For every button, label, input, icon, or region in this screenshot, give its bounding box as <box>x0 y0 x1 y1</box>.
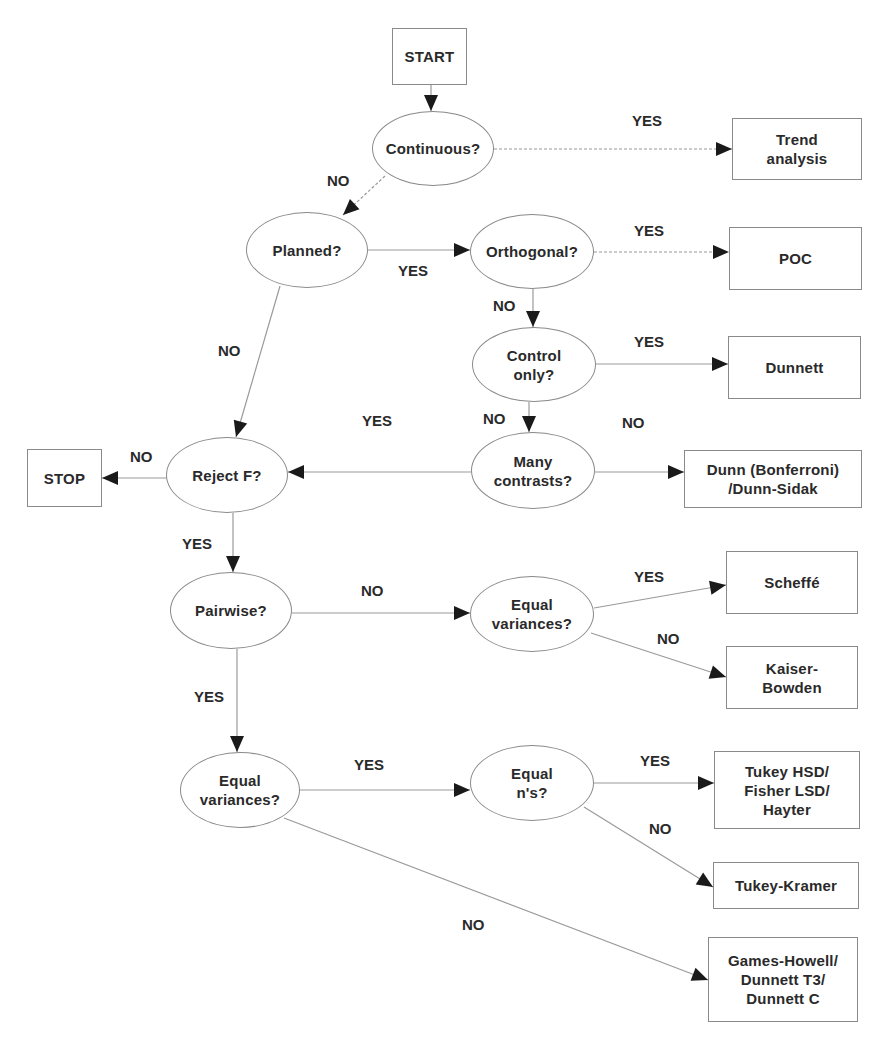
node-eqvar1: Equal variances? <box>470 576 594 652</box>
node-label-tukeykramer: Tukey-Kramer <box>735 876 837 895</box>
node-continuous: Continuous? <box>372 111 494 186</box>
edge-eqvar1-to-scheffe <box>594 585 726 608</box>
node-label-start: START <box>405 47 455 66</box>
edge-label-planned-to-rejectf: NO <box>218 342 241 359</box>
node-label-eqn: Equal n's? <box>511 764 553 802</box>
arrowhead-icon <box>454 243 470 257</box>
edge-label-continuous-to-trend: YES <box>632 112 662 129</box>
node-pairwise: Pairwise? <box>170 572 292 649</box>
edge-label-rejectf-to-pairwise: YES <box>182 535 212 552</box>
arrowhead-icon <box>709 665 726 678</box>
node-eqvar2: Equal variances? <box>180 752 300 828</box>
edge-label-orthogonal-to-poc: YES <box>634 222 664 239</box>
arrowhead-icon <box>226 556 240 572</box>
arrowhead-icon <box>424 95 438 111</box>
edge-label-orthogonal-to-control: NO <box>493 297 516 314</box>
edge-label-eqn-to-tukeyhsd: YES <box>640 752 670 769</box>
node-trend: Trend analysis <box>732 118 862 180</box>
node-games: Games-Howell/ Dunnett T3/ Dunnett C <box>708 937 858 1022</box>
flowchart-canvas: YESNOYESYESNONOYESNOYESNONOYESNOYESNOYES… <box>0 0 883 1040</box>
node-label-rejectf: Reject F? <box>192 466 261 485</box>
node-label-control: Control only? <box>507 346 562 384</box>
edge-label-planned-to-orthogonal: YES <box>398 262 428 279</box>
arrowhead-icon <box>709 581 726 595</box>
edge-label-eqvar2-to-games: NO <box>462 916 485 933</box>
edge-label-eqvar1-to-scheffe: YES <box>634 568 664 585</box>
node-label-trend: Trend analysis <box>767 130 828 168</box>
arrowhead-icon <box>234 420 247 437</box>
node-label-eqvar1: Equal variances? <box>492 595 572 633</box>
edge-label-control-to-many: NO <box>483 410 506 427</box>
arrowhead-icon <box>526 311 540 327</box>
node-label-stop: STOP <box>44 469 85 488</box>
edge-label-eqn-to-tukeykramer: NO <box>649 820 672 837</box>
node-label-planned: Planned? <box>272 241 341 260</box>
node-label-dunnett: Dunnett <box>765 358 823 377</box>
node-kaiser: Kaiser- Bowden <box>726 646 858 709</box>
node-rejectf: Reject F? <box>166 437 288 513</box>
node-label-scheffe: Scheffé <box>764 573 820 592</box>
edge-label-eqvar2-to-eqn: YES <box>354 756 384 773</box>
node-label-continuous: Continuous? <box>386 139 481 158</box>
edge-label-pairwise-to-eqvar2: YES <box>194 688 224 705</box>
arrowhead-icon <box>230 736 244 752</box>
node-label-orthogonal: Orthogonal? <box>486 242 578 261</box>
arrowhead-icon <box>522 416 536 432</box>
node-start: START <box>392 28 467 85</box>
edge-eqn-to-tukeykramer <box>584 807 713 887</box>
arrowhead-icon <box>454 783 470 797</box>
edge-label-many-to-dunn: NO <box>622 414 645 431</box>
arrowhead-icon <box>716 142 732 156</box>
edge-planned-to-rejectf <box>236 286 280 437</box>
arrowhead-icon <box>102 471 118 485</box>
edge-label-many-to-rejectf: YES <box>362 412 392 429</box>
node-dunnett: Dunnett <box>728 336 861 399</box>
edge-label-control-to-dunnett: YES <box>634 333 664 350</box>
arrowhead-icon <box>713 245 729 259</box>
edge-label-continuous-to-planned: NO <box>327 172 350 189</box>
edge-label-rejectf-to-stop: NO <box>130 448 153 465</box>
arrowhead-icon <box>696 873 713 887</box>
edge-label-pairwise-to-eqvar1: NO <box>361 582 384 599</box>
node-label-dunn: Dunn (Bonferroni) /Dunn-Sidak <box>707 460 840 498</box>
node-label-kaiser: Kaiser- Bowden <box>762 659 822 697</box>
node-label-tukeyhsd: Tukey HSD/ Fisher LSD/ Hayter <box>744 762 830 819</box>
node-label-pairwise: Pairwise? <box>195 601 267 620</box>
node-many: Many contrasts? <box>471 432 595 509</box>
node-control: Control only? <box>472 327 596 402</box>
arrowhead-icon <box>668 465 684 479</box>
edge-eqvar2-to-games <box>284 818 708 980</box>
node-label-games: Games-Howell/ Dunnett T3/ Dunnett C <box>728 951 838 1008</box>
node-stop: STOP <box>27 449 102 507</box>
edge-label-eqvar1-to-kaiser: NO <box>657 630 680 647</box>
node-tukeyhsd: Tukey HSD/ Fisher LSD/ Hayter <box>714 751 860 829</box>
node-scheffe: Scheffé <box>726 551 858 614</box>
arrowhead-icon <box>691 968 708 981</box>
arrowhead-icon <box>454 606 470 620</box>
node-poc: POC <box>729 227 862 290</box>
node-orthogonal: Orthogonal? <box>470 214 594 289</box>
node-label-eqvar2: Equal variances? <box>200 771 280 809</box>
node-dunn: Dunn (Bonferroni) /Dunn-Sidak <box>684 450 862 508</box>
arrowhead-icon <box>712 357 728 371</box>
node-label-many: Many contrasts? <box>494 452 573 490</box>
arrowhead-icon <box>698 776 714 790</box>
node-planned: Planned? <box>246 212 368 288</box>
node-label-poc: POC <box>779 249 812 268</box>
node-tukeykramer: Tukey-Kramer <box>713 862 859 909</box>
node-eqn: Equal n's? <box>470 745 594 821</box>
arrowhead-icon <box>288 465 304 479</box>
